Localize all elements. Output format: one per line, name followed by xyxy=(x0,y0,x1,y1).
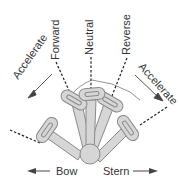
arrowhead-left-icon xyxy=(28,90,36,98)
bow-indicator: Bow xyxy=(27,165,77,177)
svg-text:Accelerate: Accelerate xyxy=(137,60,180,107)
svg-text:Forward: Forward xyxy=(49,20,61,60)
svg-text:Neutral: Neutral xyxy=(83,20,95,55)
stern-indicator: Stern xyxy=(103,165,158,177)
svg-text:Bow: Bow xyxy=(56,165,77,177)
lever-bow-accelerate xyxy=(34,115,82,160)
label-neutral: Neutral xyxy=(83,20,95,55)
label-accelerate-left: Accelerate xyxy=(10,32,50,81)
label-reverse: Reverse xyxy=(120,14,132,55)
arrow-right-icon xyxy=(149,168,158,174)
throttle-position-diagram: Accelerate Forward Neutral Reverse Accel… xyxy=(0,0,180,184)
pivot-hub xyxy=(80,144,100,164)
reverse-line xyxy=(112,58,127,96)
arrow-left-icon xyxy=(27,168,36,174)
label-forward: Forward xyxy=(49,20,61,60)
throttle-levers xyxy=(34,87,141,164)
svg-text:Reverse: Reverse xyxy=(120,14,132,55)
handle-neutral xyxy=(79,87,106,101)
bow-limit-line xyxy=(10,130,40,143)
label-accelerate-right: Accelerate xyxy=(137,60,180,107)
direction-indicators: Bow Stern xyxy=(27,165,158,177)
svg-text:Accelerate: Accelerate xyxy=(10,32,50,81)
svg-text:Stern: Stern xyxy=(103,165,129,177)
accelerate-left-arrow xyxy=(32,74,52,94)
stern-limit-line xyxy=(140,107,167,125)
